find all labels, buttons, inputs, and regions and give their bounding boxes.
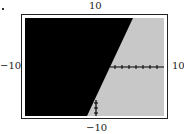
xmin-label: −10 — [0, 61, 21, 71]
ymin-label: −10 — [86, 123, 107, 133]
ymax-label: 10 — [89, 1, 102, 11]
inequality-graph — [25, 18, 164, 116]
marker-dot — [2, 8, 4, 10]
plot-area — [25, 18, 164, 116]
xmax-label: 10 — [172, 61, 184, 71]
